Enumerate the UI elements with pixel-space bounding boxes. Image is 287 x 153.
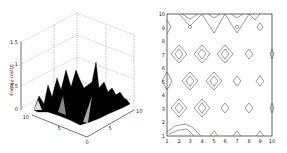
x-tick: 3	[188, 138, 191, 144]
x-tick: 9	[258, 138, 261, 144]
y-tick: 10	[23, 114, 29, 120]
x-tick: 5	[108, 125, 111, 131]
x-tick: 10	[269, 138, 275, 144]
x-tick: 8	[247, 138, 250, 144]
x-tick: 5	[212, 138, 215, 144]
z-tick: 1.5	[10, 39, 18, 45]
x-tick: 1	[165, 138, 168, 144]
x-tick: 10	[136, 108, 142, 114]
y-tick: 9	[162, 25, 165, 31]
corner-tick: 0	[85, 139, 88, 145]
y-tick: 7	[162, 52, 165, 58]
y-tick: 10	[159, 11, 165, 17]
y-tick: 5	[57, 125, 60, 131]
x-ticks: 1 2 3 4 5 6 7 8 9 10	[165, 138, 275, 144]
z-tick: 0	[15, 106, 18, 112]
y-tick: 6	[162, 65, 165, 71]
x-tick: 4	[200, 138, 203, 144]
z-tick: 1	[15, 61, 18, 67]
y-ticks: 1 2 3 4 5 6 7 8 9 10	[159, 11, 165, 139]
x-tick: 2	[177, 138, 180, 144]
surface-plot: 1.5 1 0.5 0 Energy cost(J) 10 5 0 5 10	[0, 0, 145, 153]
energy-surface	[34, 62, 130, 125]
y-tick: 3	[162, 106, 165, 112]
surface-plot-panel: 1.5 1 0.5 0 Energy cost(J) 10 5 0 5 10	[0, 0, 145, 153]
z-axis-label: Energy cost(J)	[9, 64, 14, 96]
y-tick: 2	[162, 119, 165, 125]
x-tick: 7	[235, 138, 238, 144]
contour-plot: 1 2 3 4 5 6 7 8 9 10 1 2 3 4 5 6 7 8 9 1…	[145, 0, 287, 153]
x-tick: 6	[223, 138, 226, 144]
y-tick: 8	[162, 38, 165, 44]
y-tick: 4	[162, 92, 165, 98]
contour-frame	[167, 14, 272, 136]
contour-plot-panel: 1 2 3 4 5 6 7 8 9 10 1 2 3 4 5 6 7 8 9 1…	[145, 0, 287, 153]
